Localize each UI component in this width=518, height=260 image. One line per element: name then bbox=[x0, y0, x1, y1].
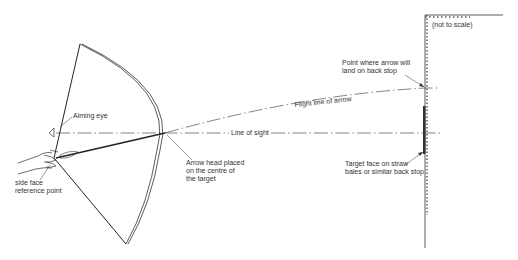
aiming-eye-icon bbox=[49, 128, 54, 137]
not-to-scale-note: (not to scale) bbox=[432, 21, 472, 29]
back-stop-wall bbox=[425, 15, 503, 248]
bow-limb bbox=[80, 44, 163, 244]
arrowhead-target bbox=[418, 152, 423, 156]
label-line-of-sight: Line of sight bbox=[229, 129, 271, 137]
label-landing-point: Point where arrow will land on back stop bbox=[342, 59, 410, 75]
label-arrow-head: Arrow head placed on the centre of the t… bbox=[186, 159, 244, 183]
target-face bbox=[423, 106, 426, 154]
label-reference-point: side face reference point bbox=[15, 179, 62, 195]
label-aiming-eye: Aiming eye bbox=[73, 112, 108, 120]
arrowhead-landing bbox=[419, 83, 424, 87]
leader-arrow-head bbox=[167, 135, 192, 160]
drawing-hand-icon bbox=[18, 150, 58, 174]
leader-reference-point bbox=[40, 165, 50, 180]
flight-line bbox=[165, 88, 440, 133]
label-target-face: Target face on straw bales or similar ba… bbox=[345, 160, 424, 176]
arrow bbox=[56, 133, 165, 158]
